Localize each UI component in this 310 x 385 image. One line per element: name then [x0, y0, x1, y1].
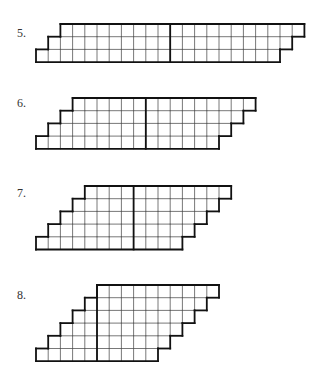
grid-diagram — [0, 0, 310, 385]
